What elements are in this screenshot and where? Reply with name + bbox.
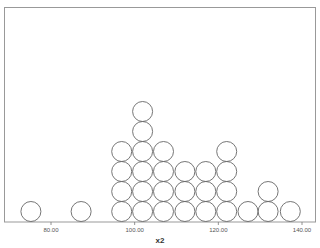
x-tick-label: 80.00 xyxy=(43,227,59,233)
x-tick-label: 100.00 xyxy=(125,227,144,233)
dot-plot: 80.00100.00120.00140.00 x2 xyxy=(0,0,320,248)
x-tick-label: 120.00 xyxy=(209,227,228,233)
x-axis-title: x2 xyxy=(156,236,165,245)
x-axis: 80.00100.00120.00140.00 xyxy=(43,222,311,233)
x-tick-label: 140.00 xyxy=(293,227,312,233)
plot-frame xyxy=(5,8,316,223)
